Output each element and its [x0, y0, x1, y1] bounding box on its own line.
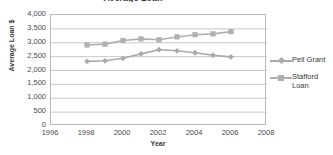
data-point-marker: [228, 29, 233, 34]
plot-area: [50, 14, 266, 125]
x-axis-tick-label: 1998: [66, 128, 106, 137]
y-axis-tick-label: 2,500: [12, 52, 46, 60]
series-stafford-loan: [84, 29, 233, 48]
series-pell-grant: [84, 47, 234, 64]
y-axis-tick-label: 1,500: [12, 79, 46, 87]
data-point-marker: [102, 42, 107, 47]
plot-svg: [51, 15, 267, 126]
data-point-marker: [84, 58, 90, 64]
y-axis-tick-label: 3,000: [12, 38, 46, 46]
data-point-marker: [228, 54, 234, 60]
y-axis-tick-label: 500: [12, 107, 46, 115]
data-point-marker: [156, 47, 162, 53]
legend-label: Pell Grant: [292, 55, 325, 64]
x-axis-tick-label: 2008: [246, 128, 286, 137]
data-point-marker: [210, 31, 215, 36]
legend-label: Stafford Loan: [292, 72, 318, 90]
x-axis-tick-labels: 1996199820002002200420062008: [50, 128, 266, 140]
x-axis-tick-label: 2006: [210, 128, 250, 137]
data-point-marker: [138, 36, 143, 41]
data-point-marker: [102, 58, 108, 64]
legend-square-icon: [270, 73, 292, 82]
data-point-marker: [174, 34, 179, 39]
chart-legend: Pell GrantStafford Loan: [270, 55, 333, 97]
x-axis-tick-label: 2002: [138, 128, 178, 137]
y-axis-tick-label: 2,000: [12, 66, 46, 74]
data-point-marker: [156, 37, 161, 42]
data-point-marker: [192, 32, 197, 37]
legend-entry[interactable]: Stafford Loan: [270, 72, 333, 90]
y-axis-tick-label: 3,500: [12, 24, 46, 32]
y-axis-tick-label: 1,000: [12, 93, 46, 101]
legend-diamond-icon: [270, 56, 292, 65]
data-point-marker: [210, 52, 216, 58]
x-axis-tick-label: 2004: [174, 128, 214, 137]
line-chart: Average Loan Average Loan $ 05001,0001,5…: [0, 0, 333, 155]
data-point-marker: [120, 38, 125, 43]
data-point-marker: [138, 51, 144, 57]
x-axis-tick-label: 2000: [102, 128, 142, 137]
legend-entry[interactable]: Pell Grant: [270, 55, 333, 65]
data-point-marker: [84, 42, 89, 47]
data-point-marker: [174, 48, 180, 54]
x-axis-tick-label: 1996: [30, 128, 70, 137]
x-axis-title: Year: [50, 140, 266, 147]
y-axis-tick-label: 4,000: [12, 10, 46, 18]
data-point-marker: [192, 50, 198, 56]
